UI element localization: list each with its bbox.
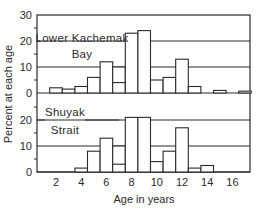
bar-age-15 [214, 90, 227, 93]
bar-age-13 [188, 168, 201, 172]
age-distribution-chart: 010203001020Lower KachemakBayShuyakStrai… [0, 0, 258, 209]
x-tick-label: 10 [151, 176, 163, 188]
x-tick-label: 8 [129, 176, 135, 188]
bar-age-14 [201, 166, 214, 173]
x-tick-label: 2 [53, 176, 59, 188]
bar-age-3 [62, 89, 75, 93]
bar-age-10 [151, 80, 164, 93]
bar-age-9 [138, 117, 151, 172]
y-tick-label: 10 [20, 140, 32, 152]
panel-label-kachemak-line2: Bay [72, 48, 93, 60]
plot-area: 010203001020Lower KachemakBayShuyakStrai… [2, 9, 251, 205]
bar-age-7 [113, 67, 126, 93]
bar-age-13 [188, 87, 201, 94]
y-tick-label: 30 [20, 9, 32, 21]
panel-label-shuyak-line1: Shuyak [45, 106, 85, 118]
bar-age-11 [163, 77, 176, 93]
y-tick-label: 0 [26, 166, 32, 178]
y-tick-label: 10 [20, 61, 32, 73]
bar-age-11 [163, 151, 176, 172]
x-axis-label: Age in years [113, 193, 175, 205]
y-tick-label: 0 [26, 87, 32, 99]
y-tick-label: 20 [20, 35, 32, 47]
bar-age-4 [75, 168, 88, 172]
bar-age-12 [176, 128, 189, 172]
bar-age-7 [113, 146, 126, 172]
bar-age-10 [151, 162, 164, 172]
bar-age-8 [125, 117, 138, 172]
panel-label-shuyak-line2: Strait [51, 124, 80, 136]
y-axis-label: Percent at each age [2, 45, 14, 143]
x-tick-label: 16 [226, 176, 238, 188]
bar-age-5 [88, 151, 101, 172]
x-tick-label: 12 [176, 176, 188, 188]
x-tick-label: 6 [103, 176, 109, 188]
bar-age-6 [100, 138, 113, 172]
bar-age-5 [88, 77, 101, 93]
panel-label-kachemak-line1: Lower Kachemak [35, 32, 128, 44]
bar-age-2 [50, 88, 63, 93]
x-tick-label: 14 [201, 176, 213, 188]
bar-age-6 [100, 62, 113, 93]
x-tick-label: 4 [78, 176, 84, 188]
bar-age-17 [239, 91, 252, 93]
bar-age-4 [75, 87, 88, 94]
bar-age-9 [138, 31, 151, 93]
bar-age-12 [176, 59, 189, 93]
y-tick-label: 20 [20, 114, 32, 126]
